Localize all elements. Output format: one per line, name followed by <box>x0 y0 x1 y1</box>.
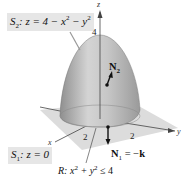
n1-label-name: N <box>111 148 119 159</box>
x-axis-label: x <box>48 138 52 147</box>
n2-label-name: N <box>109 61 117 72</box>
y-axis-label: y <box>177 127 181 136</box>
s2-leader <box>70 32 80 50</box>
n2-label-sub: 2 <box>117 67 121 75</box>
z-axis-label: z <box>97 0 100 9</box>
s1-label: S1: z = 0 <box>8 147 52 164</box>
region-label: R: x2 + y2 ≤ 4 <box>58 164 113 176</box>
n1-label: N1 = −k <box>111 148 145 162</box>
n1-label-eq: = − <box>122 148 139 159</box>
s2-label-eq2: − y <box>69 15 87 27</box>
region-label-suffix: ≤ 4 <box>98 165 114 176</box>
s1-label-eq: : z = 0 <box>20 148 49 160</box>
x-tick-2: 2 <box>83 132 88 142</box>
region-label-mid: + y <box>78 165 94 176</box>
n1-label-k: k <box>139 148 145 159</box>
s2-label-eq1: : z = 4 − x <box>19 15 66 27</box>
s2-label: S2: z = 4 − x2 − y2 <box>7 13 94 31</box>
y-tick-2: 2 <box>130 131 135 141</box>
region-label-prefix: R: x <box>58 165 74 176</box>
n2-label: N2 <box>109 61 120 75</box>
s2-label-exp2: 2 <box>87 14 91 22</box>
z-tick-4: 4 <box>92 27 97 37</box>
z-axis-arrow <box>98 10 103 18</box>
